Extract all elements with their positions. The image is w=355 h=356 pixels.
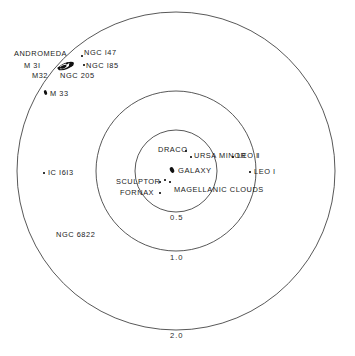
label-ngc-185: NGC I85 [86, 62, 119, 69]
local-group-diagram: ANDROMEDA M 3I M32 NGC 205 NGC I47 NGC I… [0, 0, 355, 356]
ring-label-1-0: 1.0 [170, 254, 184, 262]
point-ngc-185 [83, 64, 85, 66]
point-leo-2 [232, 156, 234, 158]
label-m31: M 3I [24, 62, 41, 69]
label-ngc-205: NGC 205 [60, 72, 95, 79]
label-ic-1613: IC I6I3 [48, 169, 74, 176]
point-fornax [159, 192, 161, 194]
point-ursa-minor [190, 156, 192, 158]
label-sculptor: SCULPTOR [116, 178, 161, 185]
label-leo-1: LEO I [254, 168, 276, 175]
label-draco: DRACO [158, 146, 187, 153]
label-ngc-6822: NGC 6822 [56, 231, 95, 238]
point-ic-1613 [43, 172, 45, 174]
label-leo-2: LEO Ⅱ [237, 152, 260, 159]
label-ngc-147: NGC I47 [84, 49, 117, 56]
label-fornax: FORNAX [120, 189, 154, 196]
ring-label-0-5: 0.5 [170, 214, 184, 222]
label-andromeda: ANDROMEDA [14, 50, 67, 57]
ring-label-2-0: 2.0 [170, 332, 184, 340]
point-draco [185, 150, 187, 152]
point-lmc [164, 179, 166, 181]
label-galaxy: GALAXY [178, 167, 212, 175]
point-leo-1 [249, 171, 251, 173]
label-magellanic-clouds: MAGELLANIC CLOUDS [174, 186, 264, 193]
point-ngc-147 [81, 55, 83, 57]
ring-circle-1-0 [96, 91, 256, 251]
label-m33: M 33 [50, 90, 69, 97]
label-m32: M32 [32, 72, 48, 79]
point-sculptor [159, 181, 161, 183]
point-smc [169, 181, 171, 183]
